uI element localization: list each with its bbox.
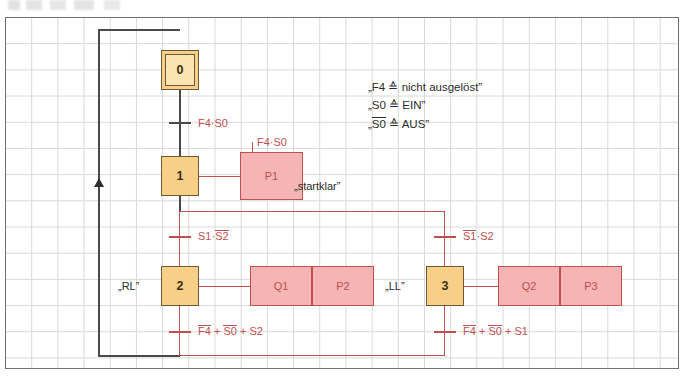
legend-2-symbol: ≙ xyxy=(389,99,399,111)
transition-label-0-1: F4·S0 xyxy=(198,117,228,130)
transition-label-2-0: F4 + S0 + S2 xyxy=(198,325,263,338)
step-box-1[interactable]: 1 xyxy=(161,156,199,196)
transition-label-1-2: S1·S2 xyxy=(198,230,229,243)
step-2-side-label: „RL” xyxy=(118,280,139,293)
t30-plus-1: + xyxy=(476,325,489,337)
cropped-text-artifact xyxy=(8,0,148,10)
return-line-bottom xyxy=(98,355,180,357)
t20-part-s2: S2 xyxy=(249,325,262,337)
legend-2-prefix: „S0 xyxy=(368,99,389,111)
legend-line-2: „S0 ≙ EIN” xyxy=(368,99,425,112)
t30-part-s1: S1 xyxy=(514,325,527,337)
step-2-number: 2 xyxy=(176,279,183,293)
divergence-line xyxy=(179,211,445,212)
diagram-screenshot: 0 1 2 3 „RL” „LL” P1 Q1 P2 Q2 P3 xyxy=(0,0,687,380)
t01-part-f4: F4 xyxy=(198,117,211,129)
t12-part-s1: S1 xyxy=(198,230,211,242)
step-3-side-label: „LL” xyxy=(385,280,405,293)
legend-3-s0-negated: S0 xyxy=(372,117,386,130)
return-arrow-icon xyxy=(94,178,104,187)
action-box-p1[interactable]: P1 xyxy=(240,152,303,200)
action-p3-label: P3 xyxy=(584,280,597,292)
legend-line-1: „F4 ≙ nicht ausgelöst” xyxy=(368,81,482,94)
branch-right-vertical-top xyxy=(444,211,445,267)
t30-part-s0-negated: S0 xyxy=(488,325,501,338)
t12-part-s2-negated: S2 xyxy=(215,230,228,243)
transition-label-1-3: S1·S2 xyxy=(463,230,494,243)
action-box-q1[interactable]: Q1 xyxy=(250,266,312,306)
transition-bar-1-2 xyxy=(169,236,191,238)
return-line-top xyxy=(98,29,180,31)
t13-part-s2: S2 xyxy=(480,230,493,242)
transition-bar-2-0 xyxy=(169,331,191,333)
step-box-0[interactable]: 0 xyxy=(161,50,199,90)
transition-bar-1-3 xyxy=(434,236,456,238)
transition-bar-0-1 xyxy=(169,122,191,124)
t01-part-s0: S0 xyxy=(215,117,228,129)
transition-label-3-0: F4 + S0 + S1 xyxy=(463,325,528,338)
step-box-3[interactable]: 3 xyxy=(426,266,464,306)
step-0-number: 0 xyxy=(176,63,183,77)
step-0-inner: 0 xyxy=(165,54,195,86)
action-box-p3[interactable]: P3 xyxy=(560,266,622,306)
action-link-step1 xyxy=(198,176,240,177)
step-1-number: 1 xyxy=(176,169,183,183)
action-q1-label: Q1 xyxy=(274,280,289,292)
step-3-number: 3 xyxy=(441,279,448,293)
action-q2-label: Q2 xyxy=(522,280,537,292)
return-line-left-vertical xyxy=(98,29,100,356)
t13-part-s1-negated: S1 xyxy=(463,230,476,243)
t20-part-f4-negated: F4 xyxy=(198,325,211,338)
t20-plus-2: + xyxy=(237,325,250,337)
legend-2-suffix: EIN” xyxy=(399,99,425,111)
t30-part-f4-negated: F4 xyxy=(463,325,476,338)
action-box-p2[interactable]: P2 xyxy=(312,266,374,306)
action-p1-comment: „startklar” xyxy=(294,180,340,193)
action-p1-label: P1 xyxy=(265,170,278,182)
grid-canvas: 0 1 2 3 „RL” „LL” P1 Q1 P2 Q2 P3 xyxy=(5,17,679,369)
action-p2-label: P2 xyxy=(336,280,349,292)
t20-plus-1: + xyxy=(211,325,224,337)
action-link-step2 xyxy=(198,286,250,287)
action-link-step3 xyxy=(463,286,498,287)
action-box-q2[interactable]: Q2 xyxy=(498,266,560,306)
transition-bar-3-0 xyxy=(434,331,456,333)
t30-plus-2: + xyxy=(502,325,515,337)
branch-left-vertical-top xyxy=(179,211,180,267)
legend-3-symbol: ≙ xyxy=(386,118,399,130)
legend-1-prefix: „F4 xyxy=(368,81,388,93)
legend-line-3: „S0 ≙ AUS” xyxy=(368,117,429,131)
convergence-line xyxy=(179,355,445,356)
step-box-2[interactable]: 2 xyxy=(161,266,199,306)
t20-part-s0-negated: S0 xyxy=(223,325,236,338)
legend-1-suffix: nicht ausgelöst” xyxy=(398,81,482,93)
legend-1-symbol: ≙ xyxy=(388,81,398,93)
legend-3-suffix: AUS” xyxy=(399,118,429,130)
action-condition-label-p1: F4·S0 xyxy=(257,136,287,149)
link-step1-divergence xyxy=(179,196,181,212)
